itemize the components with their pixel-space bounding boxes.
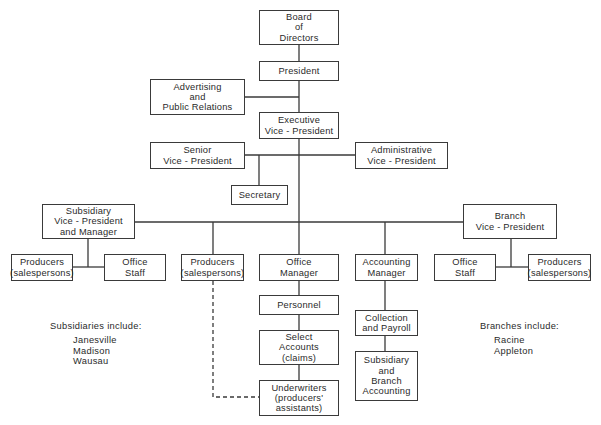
box-line: Office xyxy=(286,257,311,267)
box-line: Vice - President xyxy=(265,126,334,136)
box-line: Vice - President xyxy=(476,222,545,232)
branch-office-staff-box: Office Staff xyxy=(434,254,496,281)
box-line: assistants) xyxy=(276,403,323,413)
executive-vp-box: Executive Vice - President xyxy=(259,112,339,139)
subsidiary-producers-box: Producers (salespersons) xyxy=(11,254,73,281)
box-line: Secretary xyxy=(239,190,281,200)
box-line: Office xyxy=(452,257,477,267)
subsidiary-office-staff-box: Office Staff xyxy=(104,254,166,281)
box-line: Manager xyxy=(280,268,318,278)
box-line: (salespersons) xyxy=(528,268,592,278)
box-line: (claims) xyxy=(282,353,316,363)
box-line: Executive xyxy=(278,115,320,125)
box-line: Office xyxy=(122,257,147,267)
box-line: Producers xyxy=(190,257,234,267)
producers-box: Producers (salespersons) xyxy=(181,254,244,281)
box-line: Collection xyxy=(365,313,408,323)
box-line: Subsidiary xyxy=(66,206,111,216)
box-line: Manager xyxy=(367,268,405,278)
branches-heading: Branches include: xyxy=(480,321,559,331)
accounting-manager-box: Accounting Manager xyxy=(355,254,418,281)
box-line: (salespersons) xyxy=(10,268,74,278)
underwriters-box: Underwriters (producers' assistants) xyxy=(259,380,339,416)
box-line: Subsidiary xyxy=(364,355,409,365)
box-line: Select xyxy=(285,332,312,342)
subsidiary-item: Wausau xyxy=(73,356,142,366)
box-line: Board xyxy=(286,12,312,22)
box-line: Accounts xyxy=(279,342,319,352)
box-line: Branch xyxy=(495,211,526,221)
box-line: Public Relations xyxy=(163,102,233,112)
advertising-pr-box: Advertising and Public Relations xyxy=(150,79,245,115)
branch-producers-box: Producers (salespersons) xyxy=(528,254,591,281)
subsidiary-item: Janesville xyxy=(73,335,142,345)
box-line: Producers xyxy=(20,257,64,267)
branch-item: Racine xyxy=(494,335,559,345)
box-line: and xyxy=(189,92,205,102)
select-accounts-box: Select Accounts (claims) xyxy=(259,330,339,365)
box-line: Administrative xyxy=(371,145,432,155)
subsidiaries-list: Janesville Madison Wausau xyxy=(50,335,142,366)
box-line: Vice - President xyxy=(163,156,232,166)
branch-vp-box: Branch Vice - President xyxy=(463,204,557,239)
box-line: Accounting xyxy=(363,257,411,267)
branches-note: Branches include: Racine Appleton xyxy=(480,321,559,356)
box-line: Accounting xyxy=(363,386,411,396)
box-line: and Manager xyxy=(60,227,117,237)
subsidiaries-note: Subsidiaries include: Janesville Madison… xyxy=(50,321,142,366)
subsidiaries-heading: Subsidiaries include: xyxy=(50,321,142,331)
box-line: Personnel xyxy=(277,300,321,310)
subsidiary-vp-box: Subsidiary Vice - President and Manager xyxy=(42,204,135,239)
box-line: Vice - President xyxy=(54,216,123,226)
president-box: President xyxy=(259,61,339,81)
box-line: Staff xyxy=(455,268,475,278)
box-line: Directors xyxy=(280,33,319,43)
org-chart: Board of Directors President Advertising… xyxy=(0,0,601,425)
box-line: and Payroll xyxy=(362,323,411,333)
box-line: Underwriters xyxy=(271,383,326,393)
subsidiary-item: Madison xyxy=(73,346,142,356)
branch-item: Appleton xyxy=(494,346,559,356)
box-line: Senior xyxy=(183,145,211,155)
box-line: Staff xyxy=(125,268,145,278)
office-manager-box: Office Manager xyxy=(259,254,339,281)
box-line: Advertising xyxy=(173,82,221,92)
box-line: and xyxy=(378,366,394,376)
box-line: Branch xyxy=(371,376,402,386)
subsidiary-branch-accounting-box: Subsidiary and Branch Accounting xyxy=(355,351,418,401)
personnel-box: Personnel xyxy=(259,295,339,315)
box-line: (salespersons) xyxy=(181,268,245,278)
box-line: of xyxy=(295,22,303,32)
administrative-vp-box: Administrative Vice - President xyxy=(355,142,448,169)
secretary-box: Secretary xyxy=(231,185,288,205)
senior-vp-box: Senior Vice - President xyxy=(150,142,245,169)
branches-list: Racine Appleton xyxy=(480,335,559,356)
box-line: (producers' xyxy=(275,393,323,403)
box-line: Vice - President xyxy=(367,156,436,166)
box-line: President xyxy=(278,66,319,76)
box-line: Producers xyxy=(537,257,581,267)
board-of-directors-box: Board of Directors xyxy=(259,10,339,45)
collection-payroll-box: Collection and Payroll xyxy=(355,310,418,336)
